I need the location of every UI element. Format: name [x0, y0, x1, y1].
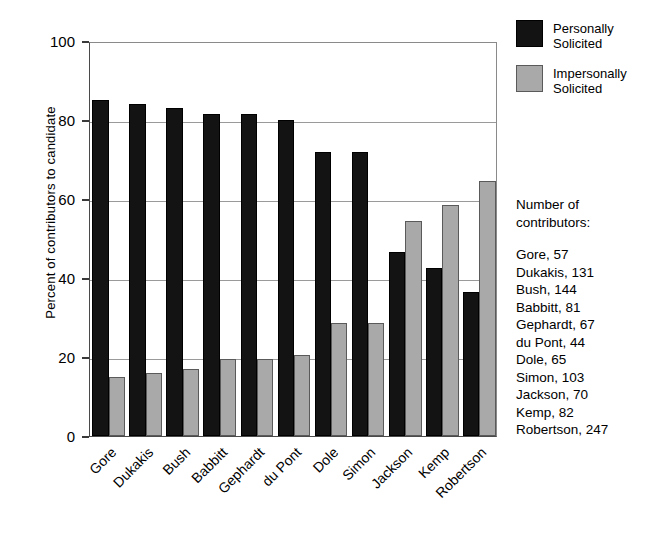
contributors-note: Number of contributors: Gore, 57Dukakis,…	[516, 196, 672, 439]
bar-babbitt-personal	[203, 114, 219, 436]
contributors-note-item: Simon, 103	[516, 369, 672, 387]
bar-jackson-personal	[389, 252, 405, 436]
y-axis-tick	[82, 436, 89, 438]
contributors-note-item: Gephardt, 67	[516, 316, 672, 334]
legend-swatch-personal	[516, 20, 543, 47]
contributors-note-item: Dole, 65	[516, 351, 672, 369]
y-axis-tick	[82, 41, 89, 43]
bar-gephardt-personal	[241, 114, 257, 436]
legend-label-line2: Solicited	[553, 81, 627, 96]
legend-label-line1: Personally	[553, 21, 614, 36]
contributors-note-item: Babbitt, 81	[516, 299, 672, 317]
bar-dole-impersonal	[331, 323, 347, 436]
y-axis-tick-label: 0	[29, 429, 75, 444]
bar-du-pont-personal	[278, 120, 294, 436]
contributors-note-title-line2: contributors:	[516, 214, 672, 232]
bar-babbitt-impersonal	[220, 359, 236, 436]
bar-simon-impersonal	[368, 323, 384, 436]
bar-gore-personal	[92, 100, 108, 436]
legend-label-line2: Solicited	[553, 36, 614, 51]
bar-du-pont-impersonal	[294, 355, 310, 436]
contributors-note-item: du Pont, 44	[516, 334, 672, 352]
bar-chart-figure: Percent of contributors to candidate 020…	[0, 0, 672, 547]
y-axis-tick-label: 100	[29, 34, 75, 49]
legend-item-impersonal: ImpersonallySolicited	[516, 65, 666, 96]
contributors-note-title-line1: Number of	[516, 196, 672, 214]
bar-simon-personal	[352, 152, 368, 436]
y-axis-tick-label: 60	[29, 192, 75, 207]
bar-jackson-impersonal	[405, 221, 421, 436]
y-axis-tick	[82, 278, 89, 280]
y-axis-tick	[82, 357, 89, 359]
legend-label-impersonal: ImpersonallySolicited	[553, 65, 627, 96]
y-axis-tick	[82, 199, 89, 201]
legend-item-personal: PersonallySolicited	[516, 20, 666, 51]
contributors-note-title: Number of contributors:	[516, 196, 672, 231]
contributors-note-item: Robertson, 247	[516, 421, 672, 439]
bar-kemp-impersonal	[442, 205, 458, 436]
legend-label-personal: PersonallySolicited	[553, 20, 614, 51]
legend-label-line1: Impersonally	[553, 66, 627, 81]
bar-dole-personal	[315, 152, 331, 436]
contributors-note-list: Gore, 57Dukakis, 131Bush, 144Babbitt, 81…	[516, 246, 672, 439]
bar-bush-impersonal	[183, 369, 199, 436]
bar-dukakis-impersonal	[146, 373, 162, 436]
contributors-note-item: Kemp, 82	[516, 404, 672, 422]
contributors-note-item: Bush, 144	[516, 281, 672, 299]
bar-gephardt-impersonal	[257, 359, 273, 436]
y-axis-tick-label: 40	[29, 271, 75, 286]
chart-legend: PersonallySolicitedImpersonallySolicited	[516, 20, 666, 110]
y-axis-tick	[82, 120, 89, 122]
bar-dukakis-personal	[129, 104, 145, 436]
contributors-note-item: Dukakis, 131	[516, 264, 672, 282]
bar-kemp-personal	[426, 268, 442, 436]
y-axis-tick-label: 80	[29, 113, 75, 128]
bar-bush-personal	[166, 108, 182, 436]
legend-swatch-impersonal	[516, 65, 543, 92]
bars-layer	[90, 43, 496, 436]
contributors-note-item: Jackson, 70	[516, 386, 672, 404]
bar-gore-impersonal	[109, 377, 125, 436]
bar-robertson-personal	[463, 292, 479, 436]
contributors-note-item: Gore, 57	[516, 246, 672, 264]
y-axis-tick-label: 20	[29, 350, 75, 365]
plot-area	[89, 42, 497, 437]
bar-robertson-impersonal	[479, 181, 495, 436]
